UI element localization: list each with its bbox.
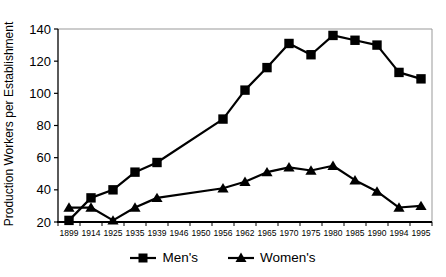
y-axis-ticks: 20406080100120140 [29, 22, 58, 230]
data-point-marker [306, 50, 315, 59]
data-point-marker [130, 167, 139, 176]
x-tick-label: 1962 [236, 228, 255, 238]
x-tick-label: 1995 [412, 228, 431, 238]
y-tick-label: 120 [29, 54, 51, 69]
mens-series-marker-icon [130, 252, 156, 264]
data-point-marker [86, 193, 95, 202]
legend-item-mens: Men's [130, 250, 198, 265]
data-point-marker [350, 36, 359, 45]
data-point-marker [152, 158, 161, 167]
x-tick-label: 1950 [192, 228, 211, 238]
data-point-marker [327, 161, 338, 170]
x-tick-label: 1925 [104, 228, 123, 238]
data-point-marker [129, 202, 140, 211]
series-womens [63, 161, 426, 225]
x-tick-label: 1956 [214, 228, 233, 238]
data-point-marker [107, 215, 118, 224]
y-tick-label: 20 [37, 215, 51, 230]
data-point-marker [108, 185, 117, 194]
x-tick-label: 1946 [170, 228, 189, 238]
y-tick-label: 140 [29, 22, 51, 37]
data-point-marker [218, 114, 227, 123]
x-tick-label: 1985 [346, 228, 365, 238]
y-tick-label: 60 [37, 150, 51, 165]
legend: Men's Women's [0, 250, 446, 265]
y-tick-label: 80 [37, 118, 51, 133]
chart-svg: 2040608010012014018991914192519351939194… [0, 0, 446, 248]
legend-label-womens: Women's [260, 250, 316, 265]
data-point-marker [64, 216, 73, 225]
x-tick-label: 1970 [280, 228, 299, 238]
data-point-marker [416, 74, 425, 83]
data-point-marker [284, 39, 293, 48]
x-tick-label: 1939 [148, 228, 167, 238]
y-axis-title: Production Workers per Establishment [2, 0, 18, 254]
data-point-marker [372, 40, 381, 49]
data-point-marker [239, 177, 250, 186]
legend-item-womens: Women's [228, 250, 316, 265]
data-point-marker [371, 186, 382, 195]
womens-series-marker-icon [228, 252, 254, 264]
x-tick-label: 1935 [126, 228, 145, 238]
x-tick-label: 1994 [390, 228, 409, 238]
series-mens [64, 31, 425, 225]
data-point-marker [262, 63, 271, 72]
data-point-marker [240, 85, 249, 94]
data-point-marker [328, 31, 337, 40]
y-tick-label: 40 [37, 182, 51, 197]
x-tick-label: 1975 [302, 228, 321, 238]
y-tick-label: 100 [29, 86, 51, 101]
legend-label-mens: Men's [162, 250, 198, 265]
x-tick-label: 1914 [82, 228, 101, 238]
x-tick-label: 1965 [258, 228, 277, 238]
x-tick-label: 1980 [324, 228, 343, 238]
x-tick-label: 1990 [368, 228, 387, 238]
x-tick-label: 1899 [60, 228, 79, 238]
data-point-marker [394, 68, 403, 77]
chart-container: Production Workers per Establishment 204… [0, 0, 446, 277]
